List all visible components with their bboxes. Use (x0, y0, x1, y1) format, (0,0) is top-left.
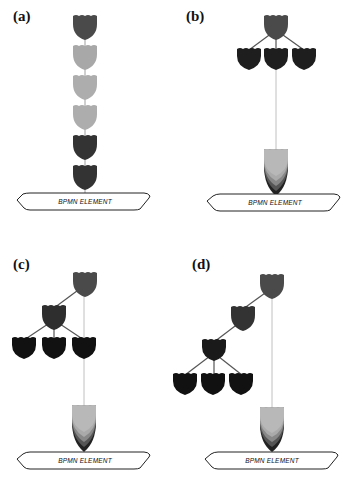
platform-label: BPMN ELEMENT (58, 457, 113, 464)
node-dark (73, 135, 97, 160)
node-root (73, 272, 97, 297)
panel-b: BPMN ELEMENT (207, 15, 340, 211)
node-child (201, 373, 225, 395)
platform-label: BPMN ELEMENT (58, 198, 113, 205)
node-mid (202, 339, 226, 361)
node-child (292, 48, 316, 70)
stacked-node (72, 405, 96, 452)
node-root (73, 15, 97, 40)
platform-label: BPMN ELEMENT (248, 199, 303, 206)
node-child (229, 373, 253, 395)
node-light (73, 105, 97, 130)
node-child (72, 337, 96, 359)
node-mid (231, 306, 255, 331)
node-child (12, 337, 36, 359)
panel-d: BPMN ELEMENT (173, 274, 338, 469)
panel-a: BPMN ELEMENT (17, 15, 150, 210)
node-child (264, 48, 288, 70)
node-child (237, 48, 261, 70)
stacked-node (264, 149, 288, 196)
node-child (173, 373, 197, 395)
node-root (260, 274, 284, 299)
stacked-node (260, 407, 284, 452)
platform-label: BPMN ELEMENT (245, 457, 300, 464)
panel-c: BPMN ELEMENT (12, 272, 150, 469)
node-light (73, 45, 97, 70)
node-light (73, 75, 97, 100)
node-dark (73, 165, 97, 190)
diagram-canvas: BPMN ELEMENT BPMN ELEMENT (0, 0, 350, 482)
node-child (42, 337, 66, 359)
